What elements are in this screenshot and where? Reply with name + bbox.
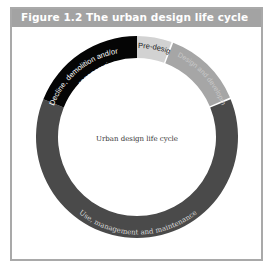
- segment-use-management: [36, 99, 238, 238]
- center-label: Urban design life cycle: [96, 135, 178, 143]
- life-cycle-ring: Pre-design Design and development Use, m…: [0, 0, 274, 269]
- segment-label-pre-design: Pre-design: [0, 0, 172, 56]
